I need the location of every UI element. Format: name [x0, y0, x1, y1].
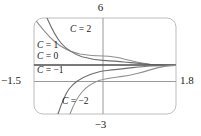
- axis-label-bottom: −3: [0, 119, 201, 130]
- figure-container: 6 −3 −1.5 1.8 C = 2 C = 1: [0, 0, 201, 136]
- curve-label-cm1: C = −1: [37, 66, 64, 76]
- curve-label-c0-value: 0: [53, 51, 58, 61]
- curve-label-c1-eq: =: [43, 40, 53, 50]
- curve-label-cm1-eq: =: [43, 65, 53, 75]
- curve-label-c2: C = 2: [70, 25, 91, 35]
- axis-label-top: 6: [0, 2, 201, 13]
- curve-label-c2-eq: =: [76, 24, 86, 34]
- curve-label-c1: C = 1: [37, 41, 58, 51]
- curve-label-c0-eq: =: [43, 51, 53, 61]
- curve-label-c0: C = 0: [37, 52, 58, 62]
- plot-area: [0, 0, 201, 136]
- curve-label-c1-value: 1: [53, 40, 58, 50]
- curve-label-cm2-eq: =: [68, 96, 78, 106]
- curve-label-cm2-value: −2: [78, 96, 88, 106]
- curve-label-cm2: C = −2: [62, 97, 89, 107]
- curve-label-c2-value: 2: [86, 24, 91, 34]
- curve-label-cm1-value: −1: [53, 65, 63, 75]
- axis-label-left: −1.5: [1, 75, 21, 86]
- axis-label-right: 1.8: [180, 75, 194, 86]
